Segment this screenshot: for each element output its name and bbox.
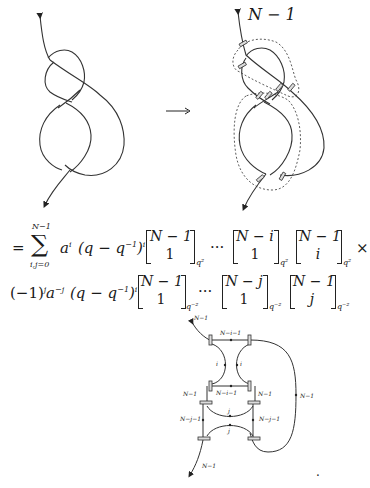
ellipsis: ···	[198, 282, 212, 300]
term-q: (q − q−1)i	[70, 284, 137, 302]
equals-sign: =	[12, 239, 25, 257]
label-left-nj1: N−j−1	[180, 415, 201, 422]
label-left-n1: N−1	[183, 390, 197, 397]
label-top-rung: N−i−1	[220, 329, 241, 336]
label-left-i: i	[216, 360, 218, 367]
label-right-i: i	[240, 360, 242, 367]
sum-lower-limit: i,j=0	[30, 260, 49, 269]
label-upper-j: j	[228, 407, 230, 414]
equation-line-1: = N−1 ∑ i,j=0 ai (q − q−1)i N − 1 1 q² ·…	[0, 222, 370, 272]
ellipsis: ···	[210, 238, 224, 256]
term-a: ai	[60, 239, 72, 257]
label-right-n1: N−1	[258, 390, 272, 397]
label-mid-rung: N−i−1	[216, 389, 237, 396]
equation-line-2: (−1)j a−j (q − q−1)i N − 1 1 q⁻² ··· N −…	[0, 272, 370, 317]
right-knot-label: N − 1	[248, 5, 296, 24]
label-lower-j: j	[228, 427, 230, 434]
label-bottom-out: N−1	[202, 462, 216, 469]
trailing-period: .	[316, 465, 320, 479]
sign-term: (−1)j	[10, 284, 46, 302]
transformation-arrow	[166, 108, 190, 114]
label-outer-loop: N−1	[300, 392, 314, 399]
sum-symbol: ∑	[31, 230, 48, 258]
label-top-in: N−1	[194, 314, 208, 321]
label-right-nj1: N−j−1	[259, 415, 280, 422]
term-a: a−j	[46, 284, 64, 302]
right-knot-diagram	[233, 12, 324, 208]
term-q: (q − q−1)i	[78, 239, 145, 257]
web-diagram	[190, 322, 297, 475]
times-sign: ×	[356, 239, 369, 257]
left-knot-diagram	[40, 16, 124, 205]
